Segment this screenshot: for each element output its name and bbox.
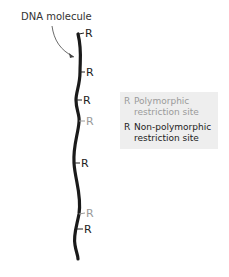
legend-item-non-polymorphic: RNon-polymorphicrestriction site (124, 122, 211, 144)
site-mark-non-polymorphic: R (84, 224, 92, 235)
site-mark-polymorphic: R (86, 116, 94, 127)
site-mark-non-polymorphic: R (81, 158, 89, 169)
legend-text-line1: Non-polymorphic (134, 122, 211, 132)
dna-strand (74, 34, 81, 259)
dna-molecule-label: DNA molecule (21, 11, 92, 22)
legend-box: RPolymorphicrestriction site RNon-polymo… (120, 92, 218, 149)
pointer-arrow-head (69, 53, 74, 58)
pointer-arrow-line (52, 26, 74, 57)
legend-symbol: R (124, 96, 134, 107)
legend-text-line2: restriction site (134, 107, 199, 117)
legend-symbol: R (124, 122, 134, 133)
site-mark-non-polymorphic: R (85, 28, 93, 39)
legend-item-polymorphic: RPolymorphicrestriction site (124, 96, 199, 118)
site-mark-non-polymorphic: R (83, 95, 91, 106)
site-mark-polymorphic: R (86, 208, 94, 219)
legend-text-line1: Polymorphic (134, 96, 189, 106)
site-mark-non-polymorphic: R (86, 67, 94, 78)
legend-text-line2: restriction site (134, 133, 199, 143)
